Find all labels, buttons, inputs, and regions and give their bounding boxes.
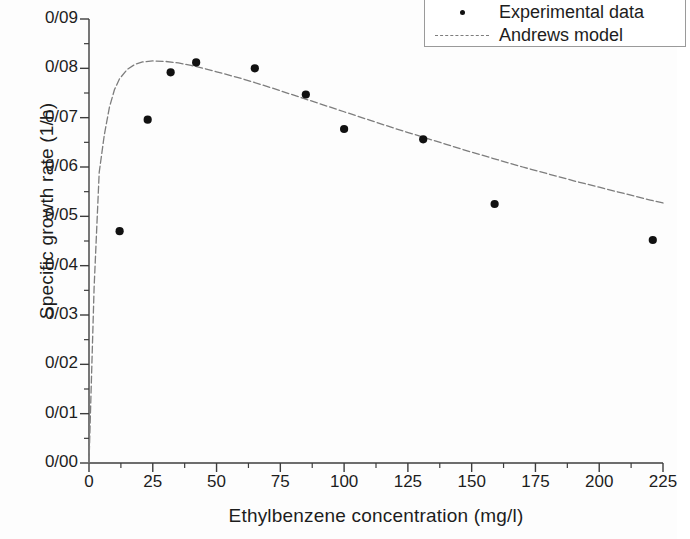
legend-label: Experimental data [499, 2, 644, 23]
data-point [167, 68, 175, 76]
data-point [116, 227, 124, 235]
data-point [649, 236, 657, 244]
experimental-data-points [116, 58, 657, 244]
legend-label: Andrews model [499, 25, 623, 46]
legend-item-andrews-model: Andrews model [425, 23, 685, 47]
data-point [419, 135, 427, 143]
data-point [491, 200, 499, 208]
data-point [340, 125, 348, 133]
data-point [144, 116, 152, 124]
dot-marker-icon [425, 0, 499, 24]
legend: Experimental data Andrews model [424, 0, 686, 47]
data-point [302, 90, 310, 98]
dashed-line-icon [425, 23, 499, 47]
data-point [251, 64, 259, 72]
andrews-model-curve [89, 61, 663, 463]
legend-item-experimental-data: Experimental data [425, 0, 685, 24]
data-point [192, 58, 200, 66]
